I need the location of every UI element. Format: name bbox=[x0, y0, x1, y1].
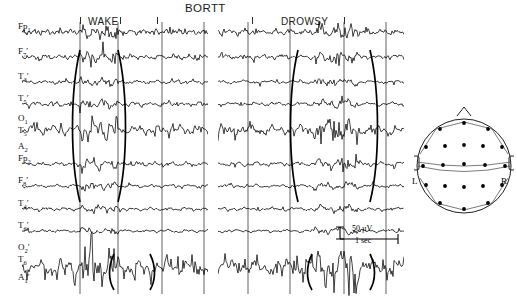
ear-right bbox=[509, 156, 514, 170]
electrode-dot-12 bbox=[483, 163, 487, 167]
figure-title: BORTT bbox=[185, 2, 226, 14]
head-right-label: R bbox=[501, 176, 507, 186]
eeg-trace-row-8 bbox=[22, 205, 208, 214]
electrode-dot-3 bbox=[486, 127, 490, 131]
electrode-dot-9 bbox=[421, 164, 425, 168]
nasion-marker bbox=[457, 107, 471, 116]
electrode-dot-10 bbox=[441, 163, 445, 167]
electrode-dot-2 bbox=[462, 121, 466, 125]
electrode-dot-13 bbox=[503, 164, 507, 168]
ear-left bbox=[414, 156, 419, 170]
electrode-dot-1 bbox=[438, 127, 442, 131]
eeg-trace-row-8 bbox=[218, 204, 404, 214]
electrode-dot-5 bbox=[443, 144, 447, 148]
electrode-dot-8 bbox=[500, 145, 504, 149]
epoch-bracket-1 bbox=[291, 50, 299, 202]
eeg-trace-row-7 bbox=[22, 182, 208, 191]
electrode-dot-7 bbox=[481, 144, 485, 148]
epoch-bracket-2 bbox=[118, 50, 126, 202]
head-left-label: L bbox=[412, 176, 418, 186]
electrode-dot-14 bbox=[424, 183, 428, 187]
head-montage-diagram bbox=[414, 104, 514, 219]
eeg-trace-row-10 bbox=[22, 232, 208, 287]
eeg-trace-row-2 bbox=[218, 52, 404, 66]
calibration-amplitude-label: 50 µV bbox=[352, 224, 372, 233]
eeg-trace-row-4 bbox=[22, 99, 208, 113]
eeg-trace-row-1 bbox=[218, 22, 404, 38]
panel-drowsy bbox=[218, 22, 404, 302]
montage-chain-lower bbox=[420, 178, 508, 210]
montage-chain-upper bbox=[420, 122, 508, 154]
electrode-dot-17 bbox=[481, 184, 485, 188]
calibration-duration-label: 1 sec bbox=[355, 236, 371, 245]
electrode-dot-21 bbox=[486, 201, 490, 205]
eeg-trace-row-3 bbox=[22, 77, 208, 87]
eeg-trace-row-7 bbox=[218, 182, 404, 191]
epoch-bracket-4 bbox=[370, 254, 375, 290]
electrode-dot-15 bbox=[443, 184, 447, 188]
panel-wake bbox=[22, 22, 208, 302]
electrode-dot-20 bbox=[462, 207, 466, 211]
electrode-dot-6 bbox=[462, 143, 466, 147]
eeg-trace-row-5 bbox=[22, 116, 208, 142]
electrode-dot-16 bbox=[462, 185, 466, 189]
eeg-trace-row-9 bbox=[22, 228, 208, 235]
eeg-figure: BORTT WAKE DROWSY Fp1F7′T3′T5′O1T5A2Fp2F… bbox=[0, 0, 517, 304]
eeg-trace-row-5 bbox=[218, 119, 404, 145]
electrode-dot-11 bbox=[462, 162, 466, 166]
electrode-dot-4 bbox=[424, 145, 428, 149]
eeg-trace-row-6 bbox=[22, 157, 208, 173]
eeg-trace-row-2 bbox=[22, 42, 208, 68]
montage-transverse bbox=[417, 166, 511, 172]
electrode-dot-19 bbox=[438, 201, 442, 205]
eeg-trace-row-1 bbox=[22, 25, 208, 40]
